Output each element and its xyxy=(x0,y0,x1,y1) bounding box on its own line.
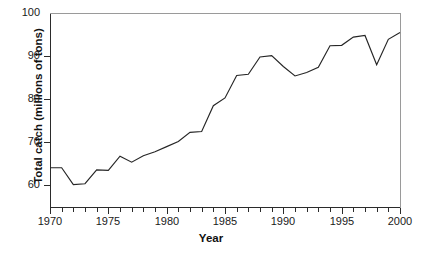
chart-container: Total catch (millions of tons) 607080901… xyxy=(0,0,422,256)
series-layer xyxy=(0,0,422,256)
x-axis-title: Year xyxy=(0,232,422,244)
total-catch-line xyxy=(50,32,400,184)
